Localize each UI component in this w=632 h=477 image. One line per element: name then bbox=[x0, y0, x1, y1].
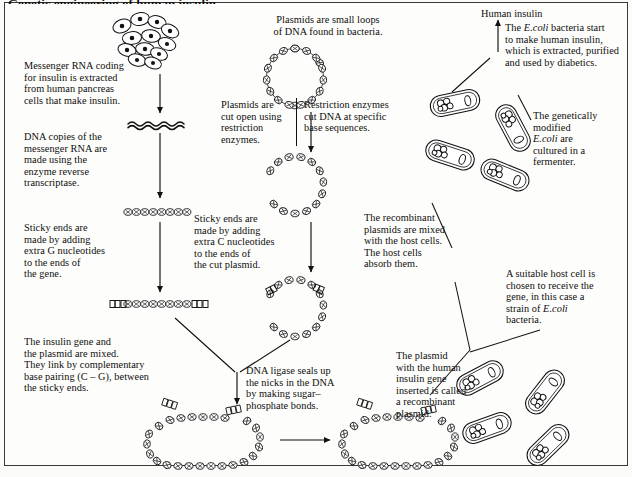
step-messenger-rna-extract: Messenger RNA coding for insulin is extr… bbox=[24, 60, 176, 106]
step-dna-copies: DNA copies of the messenger RNA are made… bbox=[24, 131, 176, 189]
label-human-insulin: Human insulin bbox=[481, 8, 543, 20]
step-suitable-host-cell: A suitable host cell ischosen to receive… bbox=[506, 268, 628, 326]
step-sticky-ends-plasmid: Sticky ends are made by adding extra C n… bbox=[194, 213, 306, 271]
step-genetically-modified-cultured: The geneticallymodifiedE.coli areculture… bbox=[533, 110, 625, 168]
step-dna-ligase: DNA ligase seals up the nicks in the DNA… bbox=[246, 365, 370, 411]
step-recombinant-plasmids-mixed: The recombinant plasmids are mixed with … bbox=[364, 212, 476, 270]
step-insulin-gene-plasmid-mixed: The insulin gene and the plasmid are mix… bbox=[24, 336, 216, 394]
step-plasmids-cut-open: Plasmids are cut open using restriction … bbox=[221, 99, 291, 145]
diagram-title: Genetic engineering of human insulin bbox=[8, 0, 216, 4]
step-plasmids-small-loops: Plasmids are small loops of DNA found in… bbox=[243, 14, 413, 37]
step-plasmid-recombinant-named: The plasmid with the human insulin gene … bbox=[396, 350, 492, 420]
step-ecoli-make-insulin: The E.coli bacteria startto make human i… bbox=[505, 22, 631, 68]
caption-divider bbox=[296, 98, 297, 146]
diagram-canvas: Genetic engineering of human insulin bbox=[0, 0, 632, 477]
step-restriction-enzymes: Restriction enzymes cut DNA at specific … bbox=[304, 99, 424, 134]
step-sticky-ends-gene: Sticky ends are made by adding extra G n… bbox=[24, 222, 176, 280]
